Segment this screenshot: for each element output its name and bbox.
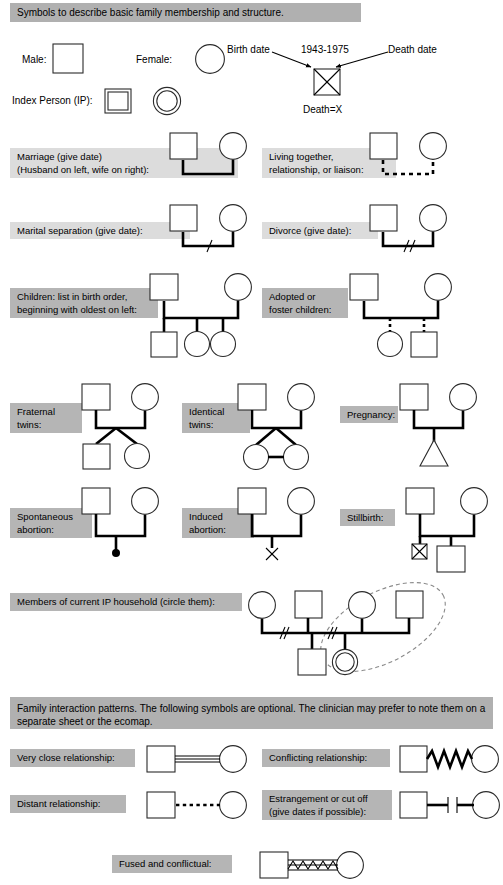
label-divorce: Divorce (give date):	[262, 222, 378, 239]
label-adopted: Adopted or foster children:	[262, 288, 348, 318]
symbol-ip-household	[250, 575, 500, 680]
section-header-basic: Symbols to describe basic family members…	[10, 3, 361, 22]
female-circle-symbol	[194, 44, 228, 76]
symbol-marriage	[168, 131, 258, 183]
label-pregnancy: Pregnancy:	[340, 406, 398, 423]
symbol-estrangement	[398, 787, 503, 823]
symbol-very-close	[145, 741, 250, 777]
section-header-interaction: Family interaction patterns. The followi…	[10, 697, 493, 729]
label-children: Children: list in birth order, beginning…	[10, 288, 158, 318]
symbol-distant	[145, 787, 250, 823]
symbol-induced-abortion	[236, 486, 326, 561]
symbol-pregnancy	[398, 382, 488, 467]
symbol-fused-conflictual	[258, 847, 368, 885]
label-very-close: Very close relationship:	[10, 749, 135, 767]
index-person-circle-symbol	[152, 86, 184, 116]
index-person-label: Index Person (IP):	[12, 95, 93, 107]
symbol-stillbirth	[404, 486, 499, 571]
symbol-spontaneous-abortion	[80, 486, 170, 561]
female-label: Female:	[136, 54, 172, 66]
label-fused: Fused and conflictual:	[112, 855, 232, 873]
label-estrangement: Estrangement or cut off (give dates if p…	[262, 790, 392, 820]
symbol-fraternal-twins	[80, 382, 170, 467]
label-stillbirth: Stillbirth:	[340, 509, 395, 526]
symbol-identical-twins	[236, 382, 326, 467]
symbol-children	[148, 272, 258, 362]
symbol-marital-separation	[168, 203, 258, 255]
symbol-divorce	[368, 203, 458, 255]
label-fraternal-twins: Fraternal twins:	[10, 403, 82, 433]
label-marital-separation: Marital separation (give date):	[10, 222, 190, 239]
symbol-adopted	[348, 272, 458, 362]
death-date-label: Death date	[388, 44, 437, 56]
death-equals-label: Death=X	[303, 104, 342, 116]
birth-date-label: Birth date	[227, 44, 270, 56]
index-person-square-symbol	[104, 88, 134, 116]
label-distant: Distant relationship:	[10, 795, 126, 813]
symbol-living-together	[368, 131, 458, 183]
label-conflicting: Conflicting relationship:	[262, 749, 390, 767]
male-label: Male:	[22, 54, 46, 66]
male-square-symbol	[52, 43, 86, 75]
label-ip-household: Members of current IP household (circle …	[10, 593, 242, 611]
death-callout-graphic	[270, 50, 395, 105]
symbol-conflicting	[398, 741, 503, 777]
